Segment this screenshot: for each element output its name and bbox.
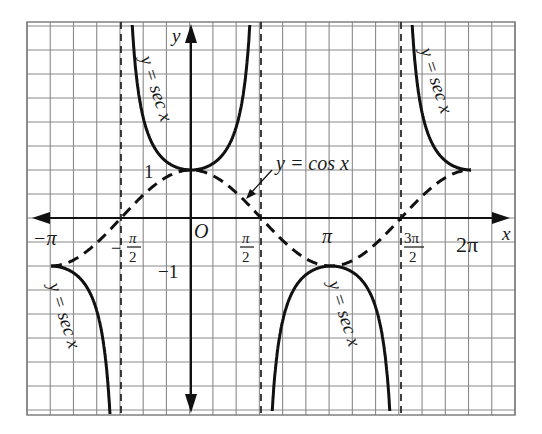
tick-three-half-pi-den: 2: [409, 249, 417, 265]
tick-neg-half-pi-num: π: [129, 230, 137, 246]
x-axis-label: x: [501, 223, 511, 244]
tick-y-one: 1: [144, 161, 154, 182]
tick-two-pi: 2π: [456, 232, 478, 257]
x-axis: [32, 212, 510, 224]
sec-cos-graph: y x O −π − π 2 π 2 π 3π 2 2π 1 −1 y = co…: [0, 0, 542, 434]
cos-curve-label: y = cos x: [274, 152, 349, 175]
tick-half-pi-den: 2: [242, 249, 250, 265]
x-axis-left-arrow-icon: [32, 212, 50, 224]
tick-neg-pi: −π: [33, 227, 57, 249]
tick-pi: π: [322, 225, 333, 247]
origin-label: O: [194, 220, 208, 242]
tick-neg-half-pi: − π 2: [111, 230, 141, 265]
tick-half-pi-num: π: [242, 230, 250, 246]
tick-half-pi: π 2: [240, 230, 254, 265]
tick-three-half-pi: 3π 2: [404, 230, 424, 265]
tick-three-half-pi-num: 3π: [404, 230, 420, 246]
tick-neg-half-pi-den: 2: [129, 249, 137, 265]
y-axis-label: y: [170, 25, 181, 46]
y-axis-up-arrow-icon: [185, 24, 197, 43]
tick-neg-half-pi-sign: −: [111, 238, 121, 258]
sec-label-bottom-right: y = sec x: [324, 276, 366, 350]
tick-y-neg-one: −1: [158, 261, 178, 282]
